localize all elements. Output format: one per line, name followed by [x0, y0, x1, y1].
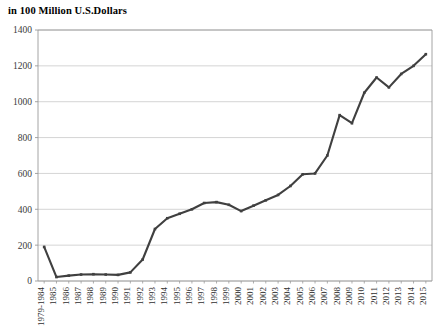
- data-point-marker: [191, 208, 194, 211]
- data-point-marker: [351, 122, 354, 125]
- x-axis-tick-label: 2009: [344, 287, 354, 306]
- data-point-marker: [154, 228, 157, 231]
- data-point-marker: [43, 246, 46, 249]
- x-axis-tick-label: 2000: [233, 287, 243, 306]
- data-point-marker: [388, 86, 391, 89]
- data-point-marker: [117, 274, 120, 277]
- x-axis-tick-label: 2012: [381, 287, 391, 305]
- x-axis-tick-label: 2006: [307, 287, 317, 306]
- x-axis-tick-label: 1989: [98, 287, 108, 306]
- x-axis-tick-label: 1997: [196, 287, 206, 306]
- x-axis-tick-label: 2015: [418, 287, 428, 306]
- x-axis-tick-label: 1999: [221, 287, 231, 306]
- data-point-marker: [104, 273, 107, 276]
- data-point-marker: [375, 76, 378, 79]
- data-point-marker: [252, 204, 255, 207]
- data-point-marker: [277, 194, 280, 197]
- y-axis-tick-label: 1400: [13, 25, 32, 35]
- x-axis-tick-label: 2007: [319, 287, 329, 306]
- y-axis-tick-label: 200: [18, 241, 33, 251]
- y-axis-tick-label: 800: [18, 133, 33, 143]
- x-axis-tick-label: 1991: [122, 287, 132, 305]
- data-point-marker: [178, 212, 181, 215]
- x-axis-tick-label: 2001: [245, 287, 255, 305]
- data-point-marker: [338, 114, 341, 117]
- x-axis-tick-label: 2014: [406, 287, 416, 306]
- data-point-marker: [326, 154, 329, 157]
- data-point-marker: [412, 65, 415, 68]
- y-axis-tick-label: 400: [18, 205, 33, 215]
- y-axis-tick-label: 1200: [13, 61, 32, 71]
- y-axis-tick-label: 600: [18, 169, 33, 179]
- data-point-marker: [301, 173, 304, 176]
- x-axis-tick-label: 2008: [332, 287, 342, 306]
- data-point-marker: [141, 258, 144, 261]
- data-point-marker: [55, 276, 58, 279]
- data-point-marker: [80, 273, 83, 276]
- series-line: [44, 54, 426, 277]
- data-point-marker: [228, 204, 231, 207]
- x-axis-tick-label: 1998: [209, 287, 219, 306]
- x-axis-tick-label: 1994: [159, 287, 169, 306]
- x-axis-tick-label: 2011: [369, 287, 379, 305]
- plot-frame: [38, 30, 432, 281]
- data-point-marker: [215, 201, 218, 204]
- x-axis-tick-label: 2013: [393, 287, 403, 306]
- x-axis-tick-label: 1995: [172, 287, 182, 306]
- x-axis-tick-label: 1990: [110, 287, 120, 306]
- data-series-line: [44, 54, 426, 277]
- x-axis-tick-label: 1996: [184, 287, 194, 306]
- x-axis-tick-label: 2010: [356, 287, 366, 306]
- y-axis-tick-labels: 0200400600800100012001400: [13, 25, 38, 286]
- data-point-marker: [400, 73, 403, 76]
- data-point-marker: [363, 91, 366, 94]
- line-chart-plot: 0200400600800100012001400 1979-198419851…: [0, 0, 447, 336]
- data-point-marker: [314, 172, 317, 175]
- data-point-marker: [264, 199, 267, 202]
- gridlines-group: [38, 30, 432, 281]
- x-axis-tick-label: 2003: [270, 287, 280, 306]
- x-axis-tick-label: 2005: [295, 287, 305, 306]
- x-axis-tick-label: 2004: [282, 287, 292, 306]
- data-point-marker: [67, 274, 70, 277]
- y-axis-tick-label: 1000: [13, 97, 32, 107]
- x-axis-tick-label: 2002: [258, 287, 268, 305]
- x-axis-tick-label: 1979-1984: [36, 287, 46, 326]
- chart-figure: in 100 Million U.S.Dollars 0200400600800…: [0, 0, 447, 336]
- data-point-marker: [240, 210, 243, 213]
- x-axis-tick-labels: 1979-19841985198619871988198919901991199…: [36, 287, 428, 327]
- y-axis-tick-label: 0: [27, 276, 32, 286]
- data-point-marker: [166, 217, 169, 220]
- x-axis-tick-label: 1993: [147, 287, 157, 306]
- data-point-marker: [425, 53, 428, 56]
- data-point-marker: [129, 271, 132, 274]
- data-point-marker: [203, 202, 206, 205]
- data-point-marker: [92, 273, 95, 276]
- x-axis-tick-label: 1985: [48, 287, 58, 306]
- data-point-marker: [289, 185, 292, 188]
- x-axis-tick-label: 1987: [73, 287, 83, 306]
- x-axis-tick-label: 1986: [61, 287, 71, 306]
- x-axis-tick-label: 1992: [135, 287, 145, 305]
- x-axis-tick-label: 1988: [85, 287, 95, 306]
